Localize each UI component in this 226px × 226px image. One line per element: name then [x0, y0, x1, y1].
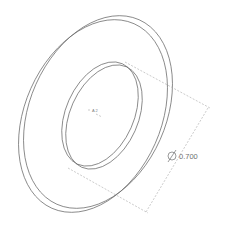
drawing-canvas: A 2 0.700	[0, 0, 226, 226]
diameter-symbol-icon	[168, 150, 176, 162]
diameter-label: 0.700	[168, 150, 198, 162]
washer-inner-hole	[47, 50, 158, 181]
origin-label: A 2	[92, 108, 99, 113]
diameter-value: 0.700	[179, 152, 198, 161]
washer-outer-edge	[0, 0, 201, 226]
origin-marker: A 2	[88, 108, 102, 117]
diameter-dimension	[68, 62, 210, 213]
